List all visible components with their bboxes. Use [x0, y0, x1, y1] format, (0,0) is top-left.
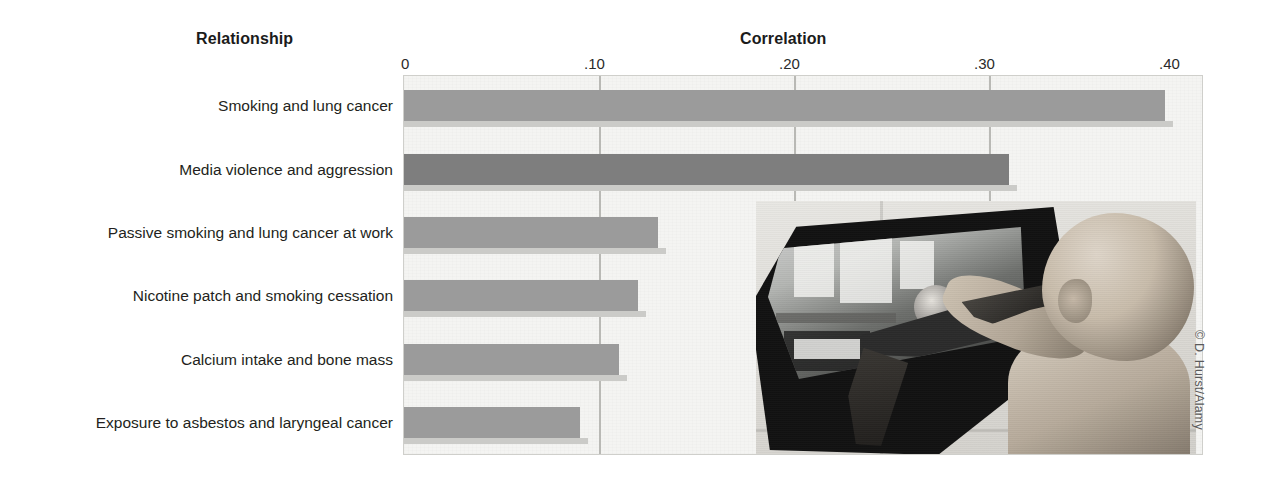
- category-label: Media violence and aggression: [0, 162, 393, 178]
- bar: [404, 407, 580, 438]
- x-tick-label: .10: [584, 55, 605, 72]
- bar-shadow: [404, 121, 1173, 127]
- bar: [404, 280, 638, 311]
- category-label: Calcium intake and bone mass: [0, 352, 393, 368]
- category-label: Smoking and lung cancer: [0, 98, 393, 114]
- plot-area: [403, 75, 1203, 455]
- correlation-bar-chart-figure: Relationship Correlation 0.10.20.30.40 S…: [0, 0, 1264, 479]
- category-label: Passive smoking and lung cancer at work: [0, 225, 393, 241]
- gridline: [599, 76, 601, 454]
- bar-shadow: [404, 311, 646, 317]
- bar: [404, 217, 658, 248]
- relationship-column-heading: Relationship: [196, 30, 293, 48]
- game-building: [840, 233, 892, 303]
- x-tick-label: .40: [1159, 55, 1180, 72]
- game-road: [776, 313, 896, 323]
- bar: [404, 90, 1165, 121]
- photo-credit: © D. Hurst/Alamy: [1192, 330, 1206, 430]
- category-label-column: Smoking and lung cancerMedia violence an…: [0, 75, 393, 455]
- game-building: [794, 243, 834, 297]
- x-tick-label: .30: [974, 55, 995, 72]
- category-label: Nicotine patch and smoking cessation: [0, 288, 393, 304]
- bar-shadow: [404, 438, 588, 444]
- x-tick-label: 0: [401, 55, 409, 72]
- game-building: [900, 241, 934, 289]
- child-ear: [1058, 279, 1092, 323]
- bar: [404, 344, 619, 375]
- bar: [404, 154, 1009, 185]
- photo-inset: [756, 201, 1196, 455]
- bar-shadow: [404, 248, 666, 254]
- photo-background-wall: [756, 201, 1196, 455]
- game-crate: [794, 339, 860, 359]
- bar-shadow: [404, 375, 627, 381]
- category-label: Exposure to asbestos and laryngeal cance…: [0, 415, 393, 431]
- correlation-axis-title: Correlation: [740, 30, 826, 48]
- x-tick-label: .20: [779, 55, 800, 72]
- bar-shadow: [404, 185, 1017, 191]
- x-axis-tick-labels: 0.10.20.30.40: [0, 55, 1264, 75]
